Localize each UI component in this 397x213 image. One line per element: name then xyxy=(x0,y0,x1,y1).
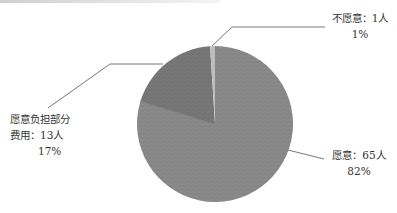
label-no-percent: 1% xyxy=(330,26,390,42)
label-no: 不愿意：1人 1% xyxy=(330,10,390,42)
leader-no xyxy=(212,27,325,46)
label-yes-count: 愿意：65人 xyxy=(328,147,390,163)
label-partial: 愿意负担部分 费用：13人 17% xyxy=(10,111,86,159)
label-yes: 愿意：65人 82% xyxy=(328,147,390,179)
label-partial-line1: 愿意负担部分 xyxy=(10,111,86,127)
leader-yes xyxy=(288,150,324,159)
label-partial-percent: 17% xyxy=(10,143,86,159)
label-no-count: 不愿意：1人 xyxy=(330,10,390,26)
label-partial-count: 费用：13人 xyxy=(10,127,86,143)
label-yes-percent: 82% xyxy=(328,163,390,179)
